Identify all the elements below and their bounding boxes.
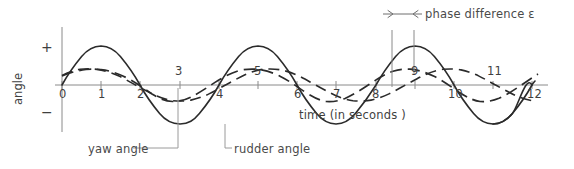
x-tick-label-7: 7 bbox=[333, 87, 341, 101]
rudder-angle-callout-label: rudder angle bbox=[234, 142, 310, 156]
x-tick-label-2: 2 bbox=[137, 87, 145, 101]
negative-sign-label: − bbox=[41, 104, 53, 120]
x-tick-label-8: 8 bbox=[372, 87, 380, 101]
x-tick-label-9: 9 bbox=[411, 64, 419, 78]
x-tick-label-6: 6 bbox=[294, 87, 302, 101]
x-tick-label-5: 5 bbox=[254, 64, 262, 78]
rudder-angle-leader bbox=[225, 124, 232, 148]
x-tick-label-12: 12 bbox=[527, 87, 542, 101]
yaw-angle-callout-label: yaw angle bbox=[88, 142, 149, 156]
x-axis-label: time (in seconds ) bbox=[299, 108, 406, 122]
y-axis-label: angle bbox=[11, 59, 25, 119]
waveform-diagram: angle + − 0 1 2 3 4 5 6 7 8 9 10 11 12 t… bbox=[0, 0, 574, 169]
x-tick-label-4: 4 bbox=[216, 87, 224, 101]
x-tick-label-3: 3 bbox=[175, 64, 183, 78]
x-tick-label-10: 10 bbox=[448, 87, 463, 101]
phase-difference-label: phase difference ε bbox=[425, 7, 535, 21]
positive-sign-label: + bbox=[41, 39, 53, 55]
x-tick-label-11: 11 bbox=[487, 64, 502, 78]
x-tick-label-0: 0 bbox=[59, 87, 67, 101]
x-tick-label-1: 1 bbox=[98, 87, 106, 101]
phase-difference-arrows bbox=[383, 11, 422, 18]
